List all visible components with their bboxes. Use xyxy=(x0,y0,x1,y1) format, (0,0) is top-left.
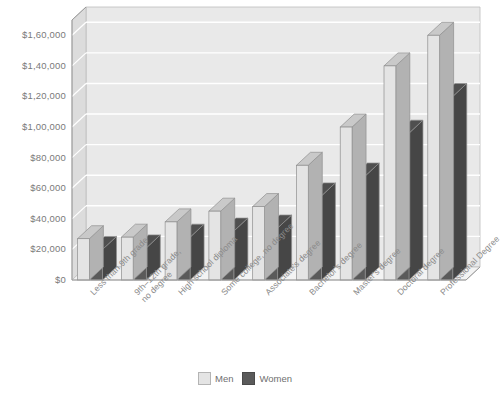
legend-item-women: Women xyxy=(242,372,292,385)
y-tick-label: $1,40,000 xyxy=(22,60,66,71)
y-tick-label: $60,000 xyxy=(30,182,66,193)
legend-swatch-women xyxy=(242,372,255,385)
y-tick-label: $40,000 xyxy=(30,213,66,224)
chart-legend: Men Women xyxy=(198,372,292,385)
legend-swatch-men xyxy=(198,372,211,385)
y-tick-label: $1,60,000 xyxy=(22,29,66,40)
y-tick-label: $80,000 xyxy=(30,152,66,163)
y-tick-label: $20,000 xyxy=(30,243,66,254)
y-tick-label: $1,20,000 xyxy=(22,90,66,101)
legend-label-men: Men xyxy=(215,373,233,384)
legend-label-women: Women xyxy=(259,373,292,384)
y-tick-label: $0 xyxy=(55,274,66,285)
legend-item-men: Men xyxy=(198,372,233,385)
bar-men xyxy=(428,22,454,280)
y-tick-label: $1,00,000 xyxy=(22,121,66,132)
